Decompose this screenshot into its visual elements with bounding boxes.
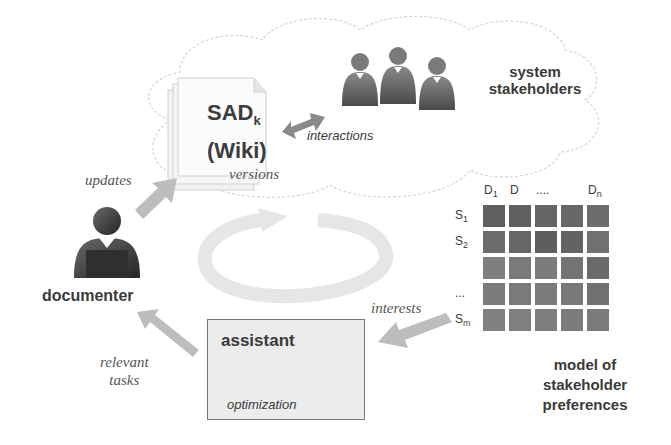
interactions-label: interactions [307,128,373,143]
matrix-cell [535,205,557,227]
stakeholders-label-line2: stakeholders [470,80,600,97]
matrix-cell [509,283,531,305]
matrix-row-header: S1 [455,208,468,224]
matrix-cell [483,257,505,279]
document-title: SADk [207,100,261,128]
matrix-column-header: .... [536,183,549,197]
matrix-column-header: D1 [484,183,498,199]
matrix-row-header: ... [455,286,465,300]
matrix-caption-line2: stakeholder preferences [500,375,670,415]
matrix-cell [587,205,609,227]
document-title-subscript: k [253,113,260,128]
matrix-cell [561,283,583,305]
relevant-tasks-label: relevant tasks [100,353,149,389]
matrix-column-header: D [510,183,519,197]
matrix-cell [509,257,531,279]
matrix-cell [561,231,583,253]
matrix-caption: model of stakeholder preferences [500,355,670,415]
matrix-cell [561,205,583,227]
matrix-cell [509,309,531,331]
relevant-tasks-line2: tasks [100,371,149,389]
matrix-caption-line1: model of [500,355,670,375]
documenter-person-icon [74,207,140,278]
versions-label: versions [229,166,279,183]
assistant-title: assistant [221,331,295,351]
updates-arrow-icon [135,178,177,219]
optimization-label: optimization [227,397,296,412]
matrix-cell [483,283,505,305]
stakeholders-label: system stakeholders [470,63,600,97]
interests-arrow-icon [378,313,452,348]
matrix-row-header: S2 [455,234,468,250]
relevant-tasks-arrow-icon [137,309,199,357]
interests-label: interests [371,300,421,317]
matrix-cell [561,309,583,331]
document-wiki-label: (Wiki) [207,138,267,164]
matrix-cell [587,257,609,279]
matrix-cell [483,231,505,253]
cycle-arrow-icon [205,219,386,296]
matrix-cell [483,309,505,331]
matrix-cell [509,231,531,253]
matrix-cell [535,231,557,253]
relevant-tasks-line1: relevant [100,353,149,371]
matrix-cell [509,205,531,227]
matrix-cell [535,283,557,305]
matrix-cell [587,283,609,305]
documenter-label: documenter [42,287,134,305]
updates-label: updates [85,172,132,189]
matrix-cell [535,309,557,331]
matrix-cell [535,257,557,279]
matrix-cell [561,257,583,279]
matrix-row-header: Sm [455,312,471,328]
matrix-cell [587,231,609,253]
stakeholders-label-line1: system [470,63,600,80]
matrix-column-header: Dn [588,183,602,199]
document-title-main: SAD [207,100,253,125]
matrix-cell [483,205,505,227]
matrix-cell [587,309,609,331]
